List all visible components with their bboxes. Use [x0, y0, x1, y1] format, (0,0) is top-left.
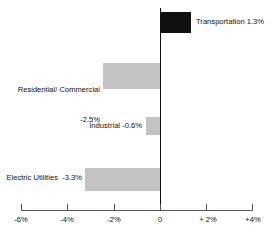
bar-label-transportation: Transportation 1.3% [196, 17, 264, 27]
bar-industrial [146, 117, 160, 135]
x-tick-label-minus2: -2% [94, 215, 134, 224]
x-axis-line [21, 210, 252, 211]
plot-area: Transportation 1.3% Residential/ Commerc… [0, 0, 278, 241]
bar-residential-commercial [103, 63, 160, 89]
x-tick-label-zero: 0 [140, 215, 180, 224]
bar-label-electric-utilities: Electric Utilities -3.3% [2, 173, 82, 183]
x-tick-label-minus4: -4% [47, 215, 87, 224]
bar-electric-utilities [85, 168, 160, 191]
bar-chart: Transportation 1.3% Residential/ Commerc… [0, 0, 278, 241]
zero-reference-line [160, 8, 161, 211]
x-tick-mark-zero [160, 204, 161, 211]
x-tick-label-plus2: + 2% [188, 215, 228, 224]
x-tick-mark-minus4 [67, 204, 68, 211]
bar-label-industrial: Industrial -0.6% [55, 121, 142, 131]
x-tick-mark-minus6 [21, 204, 22, 211]
x-tick-mark-plus4 [252, 204, 253, 211]
x-tick-label-minus6: -6% [1, 215, 41, 224]
x-tick-mark-minus2 [114, 204, 115, 211]
bar-transportation [161, 12, 191, 33]
x-tick-mark-plus2 [206, 204, 207, 211]
bar-label-residential-commercial-line1: Residential/ Commercial [14, 85, 100, 95]
x-tick-label-plus4: +4% [233, 215, 273, 224]
bar-label-residential-commercial: Residential/ Commercial -2.5% [14, 65, 100, 145]
